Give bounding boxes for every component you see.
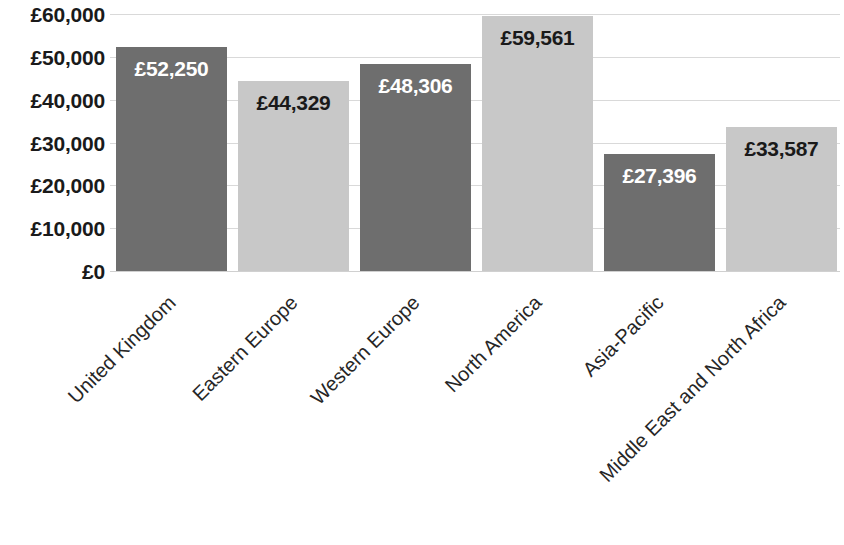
gridline — [110, 14, 840, 15]
gridline — [110, 271, 840, 272]
bar-value-label: £33,587 — [726, 138, 837, 159]
y-axis-tick-label: £60,000 — [0, 4, 105, 25]
bar-value-label: £48,306 — [360, 75, 471, 96]
bar-value-label: £59,561 — [482, 27, 593, 48]
bar[interactable]: £48,306 — [360, 64, 471, 271]
bar[interactable]: £33,587 — [726, 127, 837, 271]
y-axis-tick-label: £20,000 — [0, 175, 105, 196]
bar-chart: £60,000£50,000£40,000£30,000£20,000£10,0… — [0, 0, 844, 545]
y-axis-tick-label: £50,000 — [0, 46, 105, 67]
plot-area: £52,250£44,329£48,306£59,561£27,396£33,5… — [110, 14, 840, 271]
bar-value-label: £44,329 — [238, 92, 349, 113]
bar-value-label: £27,396 — [604, 165, 715, 186]
bar[interactable]: £44,329 — [238, 81, 349, 271]
y-axis-tick-label: £10,000 — [0, 218, 105, 239]
y-axis-tick-label: £0 — [0, 261, 105, 282]
y-axis-tick-label: £30,000 — [0, 132, 105, 153]
y-axis-tick-label: £40,000 — [0, 89, 105, 110]
bar[interactable]: £52,250 — [116, 47, 227, 271]
bar[interactable]: £59,561 — [482, 16, 593, 271]
bar[interactable]: £27,396 — [604, 154, 715, 271]
bar-value-label: £52,250 — [116, 58, 227, 79]
